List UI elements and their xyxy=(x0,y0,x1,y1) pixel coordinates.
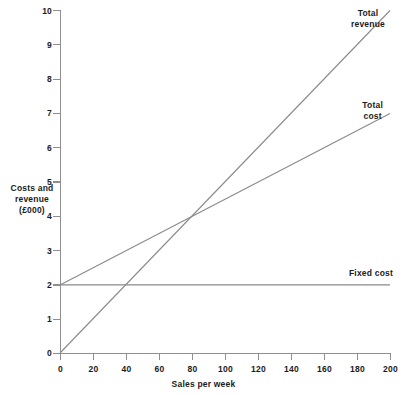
y-tick-label-1: 1 xyxy=(26,314,52,324)
series-line-total-revenue xyxy=(60,11,390,354)
series-label-fixed-cost: Fixed cost xyxy=(349,268,393,279)
x-tick-label-180: 180 xyxy=(350,364,365,374)
x-tick-label-0: 0 xyxy=(58,364,63,374)
x-tick-label-160: 160 xyxy=(317,364,332,374)
series-label-total-cost: Total cost xyxy=(362,100,383,122)
series-label-total-cost-line-1: Total xyxy=(362,100,383,111)
y-axis-title: Costs and revenue (£000) xyxy=(4,183,60,216)
y-tick-label-6: 6 xyxy=(26,143,52,153)
x-tick-label-140: 140 xyxy=(284,364,299,374)
y-tick-label-7: 7 xyxy=(26,108,52,118)
y-tick-label-10: 10 xyxy=(26,6,52,16)
y-tick-label-9: 9 xyxy=(26,40,52,50)
y-tick-label-2: 2 xyxy=(26,280,52,290)
chart-canvas xyxy=(0,0,407,397)
x-tick-label-20: 20 xyxy=(89,364,99,374)
y-axis-title-line-2: revenue xyxy=(4,194,60,205)
series-label-total-revenue-line-1: Total xyxy=(351,8,385,19)
series-label-total-revenue: Total revenue xyxy=(351,8,385,30)
y-axis-title-line-3: (£000) xyxy=(4,205,60,216)
break-even-chart: 0 1 2 3 4 5 6 7 8 9 10 0 20 40 60 80 100… xyxy=(0,0,407,397)
y-tick-label-3: 3 xyxy=(26,246,52,256)
series-label-total-revenue-line-2: revenue xyxy=(351,19,385,30)
x-tick-label-200: 200 xyxy=(383,364,398,374)
x-tick-label-40: 40 xyxy=(122,364,132,374)
x-tick-label-80: 80 xyxy=(188,364,198,374)
x-axis xyxy=(60,353,391,360)
x-tick-label-100: 100 xyxy=(218,364,233,374)
series-label-total-cost-line-2: cost xyxy=(362,111,383,122)
x-tick-label-120: 120 xyxy=(251,364,266,374)
x-axis-title: Sales per week xyxy=(0,379,407,389)
series-line-total-cost xyxy=(60,113,390,285)
x-tick-label-60: 60 xyxy=(155,364,165,374)
y-axis-title-line-1: Costs and xyxy=(4,183,60,194)
y-tick-label-8: 8 xyxy=(26,74,52,84)
y-tick-label-0: 0 xyxy=(26,348,52,358)
